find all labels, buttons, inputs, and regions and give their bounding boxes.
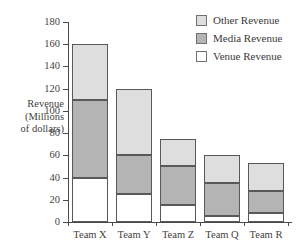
bar-segment-media-revenue[interactable]: [72, 100, 108, 178]
y-tick-label-0: 0: [55, 215, 60, 228]
x-axis-label-team-z: Team Z: [154, 228, 202, 241]
bar-segment-other-revenue[interactable]: [116, 89, 152, 156]
y-axis-line: [68, 22, 69, 222]
y-tick-label-180: 180: [44, 15, 60, 28]
legend-label-venue-revenue: Venue Revenue: [213, 50, 282, 63]
bar-segment-other-revenue[interactable]: [160, 139, 196, 167]
bar-segment-other-revenue[interactable]: [248, 163, 284, 191]
y-tick-140: 140: [63, 66, 68, 67]
legend-swatch-venue-revenue: [196, 51, 207, 62]
y-tick-120: 120: [63, 89, 68, 90]
bar-group-team-q[interactable]: [204, 155, 240, 222]
legend-label-media-revenue: Media Revenue: [213, 32, 282, 45]
bar-group-team-z[interactable]: [160, 139, 196, 222]
y-tick-label-80: 80: [50, 126, 61, 139]
legend-item-other-revenue[interactable]: Other Revenue: [196, 12, 302, 28]
y-tick-60: 60: [63, 155, 68, 156]
chart-legend: Other Revenue Media Revenue Venue Revenu…: [196, 12, 302, 66]
bar-segment-venue-revenue[interactable]: [116, 194, 152, 222]
x-axis-label-team-y: Team Y: [110, 228, 158, 241]
bar-group-team-r[interactable]: [248, 163, 284, 222]
x-tick-0: [68, 222, 69, 226]
legend-item-venue-revenue[interactable]: Venue Revenue: [196, 48, 302, 64]
bar-segment-media-revenue[interactable]: [248, 191, 284, 213]
y-tick-80: 80: [63, 133, 68, 134]
x-axis-line: [68, 222, 292, 223]
y-tick-100: 100: [63, 111, 68, 112]
x-tick-2: [156, 222, 157, 226]
bar-segment-other-revenue[interactable]: [204, 155, 240, 183]
y-tick-160: 160: [63, 44, 68, 45]
stacked-bar-chart: Revenue (Millions of dollars) 0 20 40 60…: [0, 0, 303, 248]
bar-segment-venue-revenue[interactable]: [160, 205, 196, 222]
y-tick-label-60: 60: [50, 148, 61, 161]
x-tick-5: [288, 222, 289, 226]
y-tick-label-140: 140: [44, 59, 60, 72]
legend-item-media-revenue[interactable]: Media Revenue: [196, 30, 302, 46]
x-tick-4: [244, 222, 245, 226]
bar-segment-media-revenue[interactable]: [204, 183, 240, 216]
bar-segment-venue-revenue[interactable]: [248, 213, 284, 222]
legend-label-other-revenue: Other Revenue: [213, 14, 279, 27]
bar-group-team-x[interactable]: [72, 44, 108, 222]
bar-segment-media-revenue[interactable]: [116, 155, 152, 194]
bar-segment-media-revenue[interactable]: [160, 166, 196, 205]
legend-swatch-other-revenue: [196, 15, 207, 26]
y-tick-label-40: 40: [50, 171, 61, 184]
y-tick-label-20: 20: [50, 193, 61, 206]
bar-group-team-y[interactable]: [116, 89, 152, 222]
x-axis-label-team-r: Team R: [242, 228, 290, 241]
y-tick-label-160: 160: [44, 37, 60, 50]
x-tick-1: [112, 222, 113, 226]
legend-swatch-media-revenue: [196, 33, 207, 44]
x-axis-label-team-q: Team Q: [198, 228, 246, 241]
x-axis-label-team-x: Team X: [66, 228, 114, 241]
bar-segment-venue-revenue[interactable]: [72, 178, 108, 222]
y-tick-label-120: 120: [44, 82, 60, 95]
bar-segment-venue-revenue[interactable]: [204, 216, 240, 222]
y-tick-20: 20: [63, 200, 68, 201]
y-tick-40: 40: [63, 178, 68, 179]
y-tick-180: 180: [63, 22, 68, 23]
bar-segment-other-revenue[interactable]: [72, 44, 108, 100]
y-tick-label-100: 100: [44, 104, 60, 117]
x-tick-3: [200, 222, 201, 226]
